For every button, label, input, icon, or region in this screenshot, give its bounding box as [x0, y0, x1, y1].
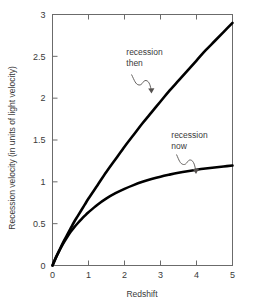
y-tick-label: 0	[40, 261, 45, 271]
x-tick-label: 4	[194, 270, 199, 280]
y-axis-title: Recession velocity (in units of light ve…	[7, 66, 17, 230]
figure-container: 012345 00.511.522.53 recessionthenrecess…	[0, 0, 264, 304]
annotation-line-1: recession	[171, 130, 208, 140]
x-tick-label: 0	[50, 270, 55, 280]
y-tick-label: 2.5	[33, 52, 46, 62]
y-tick-label: 2	[40, 93, 45, 103]
annotation-line-2: then	[126, 58, 143, 68]
x-tick-label: 3	[158, 270, 163, 280]
chart-background	[0, 0, 264, 304]
redshift-recession-velocity-chart: 012345 00.511.522.53 recessionthenrecess…	[0, 0, 264, 304]
annotation-line-1: recession	[126, 47, 163, 57]
y-tick-label: 1.5	[33, 135, 46, 145]
x-tick-label: 1	[86, 270, 91, 280]
x-tick-label: 5	[230, 270, 235, 280]
y-tick-label: 1	[40, 177, 45, 187]
x-axis-title: Redshift	[126, 289, 158, 299]
x-tick-label: 2	[122, 270, 127, 280]
y-tick-label: 0.5	[33, 219, 46, 229]
y-tick-label: 3	[40, 10, 45, 20]
annotation-line-2: now	[171, 141, 187, 151]
